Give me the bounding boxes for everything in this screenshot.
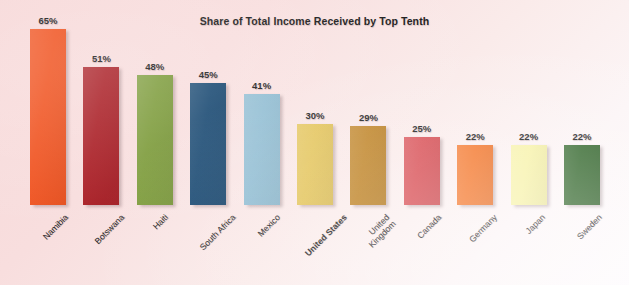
bar-value-label: 25% [395,123,449,134]
bar-value-label: 65% [21,15,75,26]
bar-category-label-line1: South Africa [198,212,238,252]
bar-group[interactable]: 22%Germany [457,145,493,205]
bar-rect[interactable] [190,83,226,205]
bar-group[interactable]: 30%United States [297,124,333,205]
bar-category-label: Japan [524,213,547,236]
bar-category-label-line1: Sweden [575,212,604,241]
bar-category-label-line1: Namibia [41,212,70,241]
bar-value-label: 22% [502,131,556,142]
bar-group[interactable]: 22%Japan [511,145,547,205]
bar-category-label-line1: Japan [523,212,547,236]
bar-category-label: UnitedKingdom [361,213,398,250]
bar-value-label: 22% [555,131,609,142]
bar-group[interactable]: 51%Botswana [83,67,119,205]
bar-rect[interactable] [30,29,66,205]
bar-group[interactable]: 48%Haiti [137,75,173,205]
bar-value-label: 30% [288,110,342,121]
bar-rect[interactable] [297,124,333,205]
bar-category-label: United States [304,213,349,258]
bar-category-label: Germany [468,213,500,245]
bar-chart-figure: Share of Total Income Received by Top Te… [0,0,629,285]
bar-group[interactable]: 41%Mexico [244,94,280,205]
bar-value-label: 22% [448,131,502,142]
bar-group[interactable]: 29%UnitedKingdom [350,126,386,205]
bar-rect[interactable] [350,126,386,205]
bar-value-label: 41% [235,80,289,91]
bar-rect[interactable] [404,137,440,205]
bar-category-label: Sweden [576,213,605,242]
bar-group[interactable]: 45%South Africa [190,83,226,205]
bar-category-label-line1: Canada [415,212,443,240]
bar-value-label: 48% [128,61,182,72]
bar-category-label-line1: Mexico [255,212,281,238]
bar-value-label: 29% [341,112,395,123]
bar-group[interactable]: 22%Sweden [564,145,600,205]
chart-plot-area: 65%Namibia51%Botswana48%Haiti45%South Af… [0,0,629,285]
bar-category-label: Haiti [151,213,170,232]
bar-category-label: South Africa [199,213,238,252]
bar-category-label: Mexico [256,213,282,239]
bar-rect[interactable] [511,145,547,205]
bar-value-label: 45% [181,69,235,80]
bar-value-label: 51% [74,53,128,64]
bar-category-label: Canada [416,213,444,241]
bar-group[interactable]: 25%Canada [404,137,440,205]
bar-rect[interactable] [457,145,493,205]
bar-group[interactable]: 65%Namibia [30,29,66,205]
bar-rect[interactable] [137,75,173,205]
bar-category-label: Botswana [94,213,127,246]
bar-rect[interactable] [564,145,600,205]
bar-rect[interactable] [83,67,119,205]
bar-category-label-line1: Haiti [151,212,170,231]
bar-category-label-line1: United States [303,212,349,258]
bar-category-label-line1: Botswana [93,212,127,246]
bar-category-label: Namibia [41,213,70,242]
bar-rect[interactable] [244,94,280,205]
bar-category-label-line1: Germany [467,212,499,244]
